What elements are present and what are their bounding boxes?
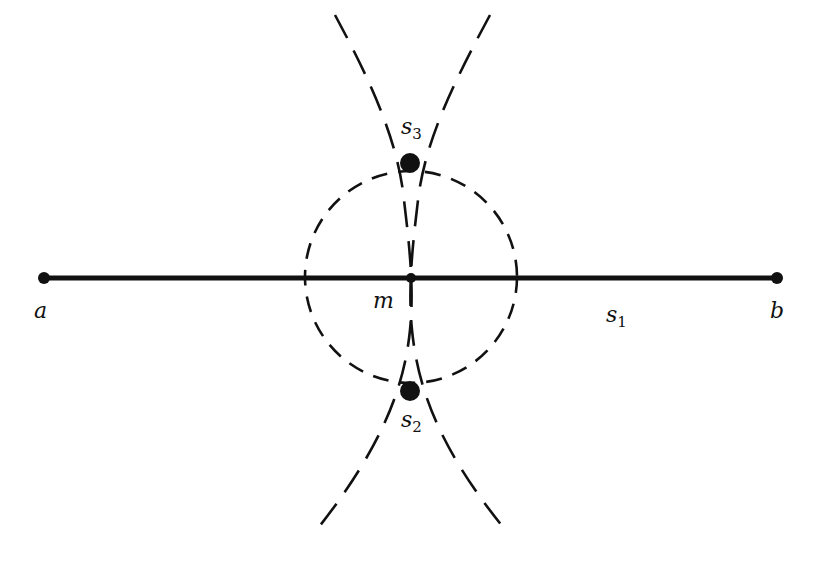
label-a: a: [34, 298, 47, 323]
point-a: [38, 272, 50, 284]
label-b: b: [770, 298, 784, 323]
label-m: m: [373, 288, 394, 313]
left-dashed-curve: [315, 15, 412, 532]
point-m: [406, 273, 416, 283]
point-b: [771, 272, 783, 284]
label-s2: s2: [401, 407, 422, 436]
label-s1: s1: [606, 302, 627, 331]
right-dashed-curve: [410, 15, 507, 532]
label-s3: s3: [401, 114, 422, 143]
construction-diagram: a b m s3 s2 s1: [0, 0, 820, 577]
point-s3: [400, 153, 420, 173]
point-s2: [400, 381, 420, 401]
